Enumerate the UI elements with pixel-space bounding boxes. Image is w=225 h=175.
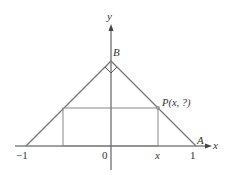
tick-label-zero: 0 bbox=[102, 149, 108, 161]
triangle-inscribed-rectangle-diagram: y x B A P(x, ?) −1 0 x 1 bbox=[0, 0, 225, 175]
triangle-left-side bbox=[26, 61, 111, 146]
point-p-label: P(x, ?) bbox=[161, 97, 191, 109]
point-a-label: A bbox=[196, 134, 204, 146]
tick-label-x: x bbox=[154, 149, 160, 161]
x-axis-label: x bbox=[212, 139, 218, 151]
tick-label-one: 1 bbox=[190, 149, 196, 161]
x-axis-arrow-icon bbox=[205, 144, 212, 149]
point-p-marker bbox=[156, 106, 160, 110]
point-b-label: B bbox=[113, 46, 120, 58]
y-axis-arrow-icon bbox=[109, 24, 114, 31]
tick-label-minus-one: −1 bbox=[16, 149, 28, 161]
y-axis-label: y bbox=[106, 10, 112, 22]
